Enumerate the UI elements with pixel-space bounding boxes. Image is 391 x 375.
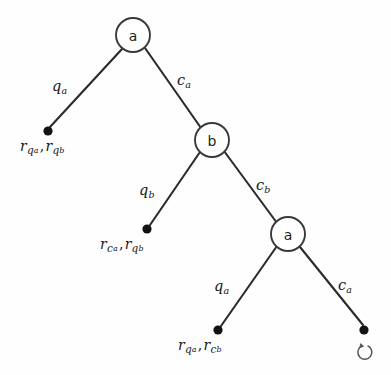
edge-label-c-b: cb: [256, 177, 271, 195]
edge-node-a2-to-terminal-3: [221, 246, 277, 326]
node-b-label: b: [208, 133, 217, 149]
edge-label-q-b: qb: [139, 182, 155, 200]
edge-label-c-a-second: ca: [338, 277, 352, 295]
edge-label-c-a-root: ca: [177, 72, 191, 90]
terminal-label-2: rca,rqb: [100, 236, 144, 254]
game-tree-diagram: a b a qa ca qb cb qa ca rqa,rqb rc: [0, 0, 391, 375]
terminal-label-1: rqa,rqb: [20, 138, 65, 156]
edge-label-q-a-root: qa: [52, 78, 67, 96]
edge-node-a2-to-terminal-4: [300, 247, 363, 325]
loop-arrow-icon: [358, 343, 372, 359]
edge-label-q-a-second: qa: [214, 278, 229, 296]
terminal-dot-4[interactable]: [359, 325, 368, 334]
terminal-dot-1[interactable]: [43, 126, 52, 135]
tree-canvas: a b a: [0, 0, 391, 375]
terminal-label-3: rqa,rcb: [178, 337, 222, 355]
node-a-second-label: a: [284, 227, 293, 243]
terminal-dot-2[interactable]: [142, 224, 151, 233]
edge-root-to-node-b: [145, 48, 201, 128]
edge-node-b-to-terminal-2: [150, 152, 200, 225]
terminal-dot-3[interactable]: [213, 325, 222, 334]
node-root-a-label: a: [129, 28, 138, 44]
